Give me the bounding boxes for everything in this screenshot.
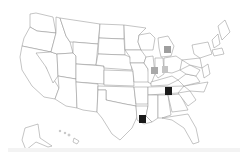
state-outlines [20, 13, 230, 144]
bottom-bar [8, 148, 240, 152]
hawaii-outline [59, 130, 79, 144]
marker-michigan[interactable] [164, 46, 171, 53]
marker-illinois[interactable] [151, 67, 158, 74]
alaska-outline [22, 124, 52, 150]
marker-louisiana[interactable] [139, 115, 146, 123]
marker-tennessee[interactable] [165, 87, 172, 95]
us-states-map [0, 0, 248, 163]
marker-indiana[interactable] [162, 66, 168, 73]
